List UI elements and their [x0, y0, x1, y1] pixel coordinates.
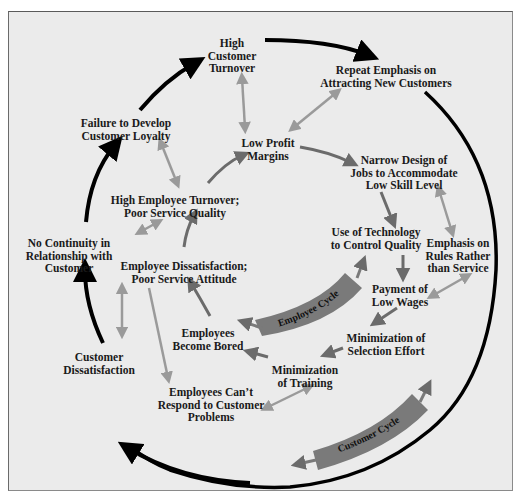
- arrow-training-to-bored: [250, 352, 268, 357]
- arrow-bored-to-dissatisfaction: [191, 283, 210, 316]
- node-employees-cant-respond: Employees Can’t Respond to Customer Prob…: [158, 386, 265, 424]
- node-low-profit-margins: Low Profit Margins: [241, 137, 294, 162]
- arrow-dissatisfaction-to-turnover: [184, 215, 194, 247]
- arrow-turnover-to-repeat: [265, 40, 368, 55]
- node-minimization-training: Minimization of Training: [272, 364, 338, 389]
- node-customer-dissatisfaction: Customer Dissatisfaction: [63, 351, 135, 376]
- node-emphasis-rules: Emphasis on Rules Rather than Service: [426, 237, 491, 275]
- node-employee-dissatisfaction: Employee Dissatisfaction; Poor Service A…: [121, 260, 248, 285]
- link-rules-wages: [432, 276, 467, 296]
- node-high-customer-turnover: High Customer Turnover: [208, 37, 257, 75]
- arrow-bottom-to-customer-dissatisfaction: [128, 448, 250, 483]
- node-repeat-emphasis: Repeat Emphasis on Attracting New Custom…: [320, 64, 452, 89]
- employee-cycle-band: Employee Cycle: [244, 262, 363, 336]
- arrow-narrow-to-technology: [381, 192, 393, 222]
- link-dissatisfaction-cant-respond: [149, 288, 168, 378]
- customer-cycle-band: Customer Cycle: [298, 386, 428, 470]
- link-no-continuity-employee-turnover: [140, 222, 158, 232]
- node-failure-loyalty: Failure to Develop Customer Loyalty: [81, 117, 172, 142]
- node-high-employee-turnover: High Employee Turnover; Poor Service Qua…: [111, 194, 239, 219]
- node-minimization-selection: Minimization of Selection Effort: [347, 332, 426, 357]
- node-no-continuity: No Continuity in Relationship with Custo…: [26, 237, 113, 275]
- arrow-customer-dissatisfaction-to-no-continuity: [85, 270, 103, 343]
- link-narrow-rules: [439, 190, 452, 232]
- arrow-turnover-to-profit: [208, 155, 243, 183]
- node-use-of-technology: Use of Technology to Control Quality: [331, 226, 422, 251]
- link-failure-employee-turnover: [161, 143, 177, 183]
- link-training-cant-respond: [266, 387, 309, 408]
- arrow-profit-to-narrow: [300, 147, 352, 163]
- arrow-failure-to-turnover: [140, 63, 195, 110]
- arrow-wages-to-selection: [376, 308, 397, 322]
- node-payment-low-wages: Payment of Low Wages: [372, 283, 428, 308]
- node-narrow-design: Narrow Design of Jobs to Accommodate Low…: [350, 154, 457, 192]
- node-employees-bored: Employees Become Bored: [172, 327, 243, 352]
- link-repeat-profit: [293, 92, 337, 128]
- arrow-selection-to-training: [327, 348, 343, 354]
- link-turnover-profit: [242, 78, 245, 128]
